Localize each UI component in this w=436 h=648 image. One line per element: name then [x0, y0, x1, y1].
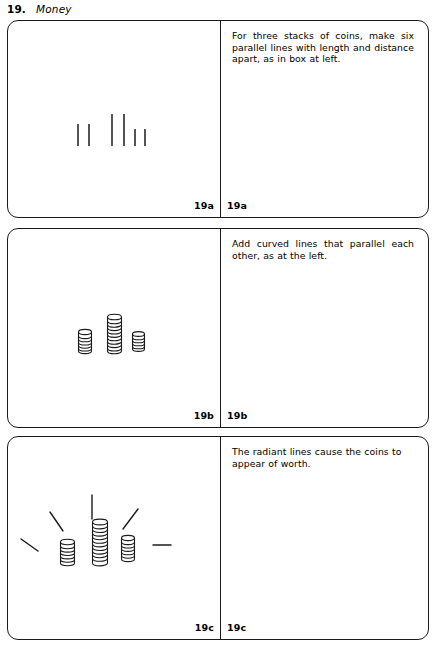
coin-stack-middle	[93, 519, 108, 566]
radiant-lines	[21, 495, 171, 551]
coin-stacks-radiant-svg	[8, 437, 220, 641]
coin-stack-middle	[108, 314, 122, 354]
panel-19b: Add curved lines that parallel each othe…	[7, 228, 429, 428]
worksheet-page: 19. Money For three stacks of coins, mak…	[0, 0, 436, 648]
illustration-six-parallel-lines	[8, 21, 220, 217]
panel-19a: For three stacks of coins, make six para…	[7, 20, 429, 218]
panel-label-left: 19a	[180, 200, 214, 212]
coin-stack-left	[79, 329, 92, 353]
panel-divider	[220, 20, 221, 218]
panel-divider	[220, 436, 221, 640]
coin-stack-right	[122, 535, 135, 561]
panel-label-right: 19c	[227, 622, 246, 634]
six-parallel-lines-svg	[8, 21, 220, 219]
panel-divider	[220, 228, 221, 428]
panel-caption: The radiant lines cause the coins to app…	[232, 446, 414, 469]
page-heading: 19. Money	[7, 0, 72, 18]
panel-label-right: 19b	[227, 410, 247, 422]
panel-caption: For three stacks of coins, make six para…	[232, 30, 414, 65]
three-coin-stacks-svg	[8, 229, 220, 429]
heading-number: 19.	[7, 3, 26, 15]
panel-label-right: 19a	[227, 200, 247, 212]
panel-19c: The radiant lines cause the coins to app…	[7, 436, 429, 640]
coin-stack-right	[133, 332, 145, 352]
illustration-three-coin-stacks	[8, 229, 220, 427]
illustration-coin-stacks-with-radiant-lines	[8, 437, 220, 639]
coin-stack-left	[61, 539, 75, 565]
panel-caption: Add curved lines that parallel each othe…	[232, 238, 414, 261]
panel-label-left: 19c	[180, 622, 214, 634]
panel-label-left: 19b	[180, 410, 214, 422]
heading-title: Money	[36, 3, 72, 15]
